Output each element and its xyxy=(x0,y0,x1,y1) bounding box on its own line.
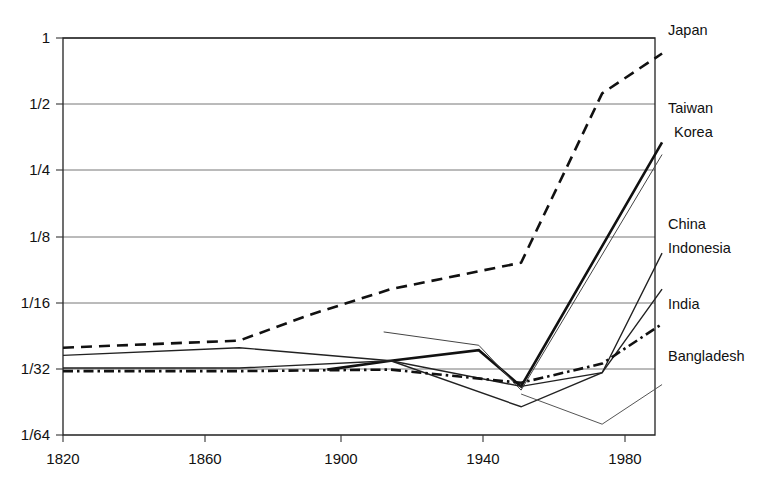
series-line-bangladesh xyxy=(521,385,662,425)
series-line-china xyxy=(63,253,662,407)
x-tick-label-1900: 1900 xyxy=(301,450,381,467)
series-line-taiwan xyxy=(327,142,662,386)
series-label-china: China xyxy=(668,216,706,232)
x-tick-label-1860: 1860 xyxy=(165,450,245,467)
y-axis-ticks xyxy=(56,38,63,435)
y-tick-label-1-4: 1/4 xyxy=(2,161,50,178)
series-line-korea xyxy=(384,155,662,391)
series-line-japan xyxy=(63,54,662,348)
y-tick-label-1-64: 1/64 xyxy=(2,426,50,443)
series-label-japan: Japan xyxy=(668,22,708,38)
plot-frame xyxy=(63,38,655,435)
line-chart-figure: 1 1/2 1/4 1/8 1/16 1/32 1/64 1820 1860 1… xyxy=(0,0,776,494)
y-tick-label-1-32: 1/32 xyxy=(2,360,50,377)
series-label-taiwan: Taiwan xyxy=(668,100,713,116)
series-line-india xyxy=(63,324,662,383)
y-tick-label-1-16: 1/16 xyxy=(2,294,50,311)
series-label-bangladesh: Bangladesh xyxy=(668,348,745,364)
series-label-korea: Korea xyxy=(674,124,713,140)
chart-svg xyxy=(0,0,776,494)
x-tick-label-1820: 1820 xyxy=(23,450,103,467)
gridlines xyxy=(63,38,655,369)
chart-root: 1 1/2 1/4 1/8 1/16 1/32 1/64 1820 1860 1… xyxy=(0,0,776,494)
series-label-india: India xyxy=(668,296,699,312)
x-tick-label-1940: 1940 xyxy=(443,450,523,467)
y-tick-label-1-2: 1/2 xyxy=(2,95,50,112)
series-label-indonesia: Indonesia xyxy=(668,240,731,256)
y-tick-label-1-8: 1/8 xyxy=(2,228,50,245)
y-tick-label-1: 1 xyxy=(2,29,50,46)
x-axis-ticks xyxy=(63,435,625,442)
x-tick-label-1980: 1980 xyxy=(585,450,665,467)
